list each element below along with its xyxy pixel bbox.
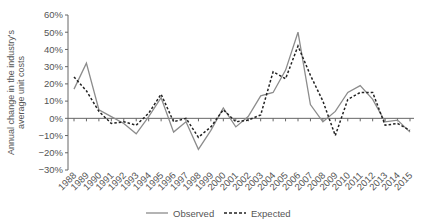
legend-observed-label: Observed <box>173 208 214 219</box>
y-axis: 60%50%40%30%20%10%0%−10%−20%−30% <box>38 9 68 175</box>
y-tick-label: 40% <box>44 44 64 55</box>
legend: Observed Expected <box>146 208 291 219</box>
y-tick-label: 0% <box>49 113 63 124</box>
y-axis-title-line: Annual change in the industry's <box>6 30 16 155</box>
y-tick-label: 30% <box>44 61 64 72</box>
y-tick-label: 50% <box>44 27 64 38</box>
series-lines <box>74 32 410 149</box>
y-tick-label: −10% <box>38 130 63 141</box>
line-chart: Annual change in the industry'saverage u… <box>0 0 421 223</box>
y-axis-title-line: average unit costs <box>16 55 26 129</box>
series-observed-line <box>74 32 410 149</box>
legend-expected-label: Expected <box>251 208 291 219</box>
y-tick-label: −20% <box>38 147 63 158</box>
y-axis-title: Annual change in the industry'saverage u… <box>6 30 26 155</box>
x-axis: 1988198919901991199219931994199519961997… <box>56 118 415 192</box>
y-tick-label: 20% <box>44 78 64 89</box>
y-tick-label: 10% <box>44 95 64 106</box>
y-tick-label: −30% <box>38 164 63 175</box>
y-tick-label: 60% <box>44 9 64 20</box>
